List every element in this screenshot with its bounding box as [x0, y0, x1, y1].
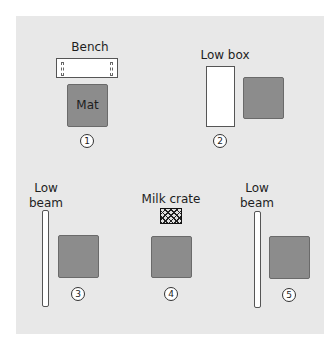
low-box-icon: [206, 66, 235, 127]
low-beam-label-3: Low beam: [25, 181, 67, 211]
mat-5: [269, 236, 310, 279]
station-number-1: 1: [80, 134, 94, 148]
low-box-label: Low box: [190, 48, 260, 63]
low-beam-label-5: Low beam: [236, 181, 278, 211]
station-number-4: 4: [164, 287, 178, 301]
milk-crate-label: Milk crate: [135, 192, 207, 207]
bench-icon: [56, 58, 118, 78]
bench-leg-left: [61, 62, 64, 76]
low-beam-icon-3: [42, 210, 49, 307]
mat-label: Mat: [68, 98, 107, 112]
station-number-5: 5: [282, 288, 296, 302]
milk-crate-icon: [160, 208, 182, 224]
mat-3: [58, 235, 99, 278]
station-number-2: 2: [213, 134, 227, 148]
low-beam-icon-5: [254, 211, 261, 308]
station-number-3: 3: [71, 287, 85, 301]
mat-1: Mat: [67, 84, 108, 127]
bench-leg-right: [110, 62, 113, 76]
bench-label: Bench: [55, 40, 125, 55]
mat-2: [243, 77, 284, 119]
mat-4: [151, 236, 192, 278]
